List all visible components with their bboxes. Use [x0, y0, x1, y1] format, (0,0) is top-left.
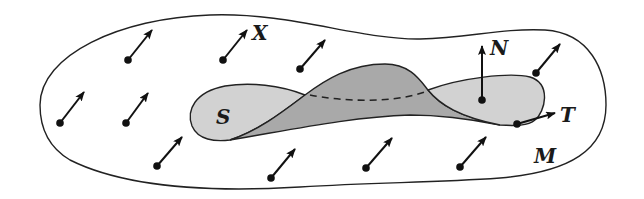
field-vector	[456, 137, 486, 171]
field-vector	[296, 40, 325, 73]
surface-label-s: S	[216, 105, 230, 129]
field-vector	[219, 30, 247, 64]
manifold-diagram: X S N T M	[0, 0, 644, 199]
field-label-x: X	[250, 21, 269, 45]
field-vector	[362, 138, 392, 172]
field-vector	[124, 30, 152, 64]
diagram-canvas: X S N T M	[0, 0, 644, 199]
surface-right-lobe	[428, 75, 545, 125]
tangent-label-t: T	[560, 103, 577, 127]
field-vector	[267, 149, 295, 182]
field-vector	[153, 137, 182, 170]
manifold-label-m: M	[533, 144, 557, 168]
normal-label-n: N	[489, 36, 509, 60]
field-vector	[56, 92, 84, 127]
field-vector	[122, 93, 148, 127]
field-vector	[532, 44, 560, 77]
